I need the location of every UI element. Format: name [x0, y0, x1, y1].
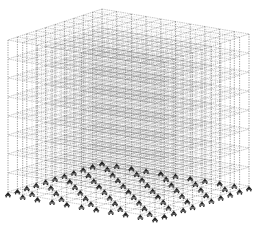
fixed-support-icon: [218, 195, 224, 201]
structural-frame-diagram: [0, 0, 257, 251]
fixed-support-icon: [152, 217, 158, 223]
fixed-support-icon: [34, 197, 40, 203]
fixed-support-icon: [123, 212, 129, 218]
fixed-support-icon: [190, 205, 196, 211]
fixed-support-icon: [137, 215, 143, 221]
fixed-support-icon: [246, 186, 252, 192]
fixed-support-icon: [64, 202, 70, 208]
fixed-support-icon: [79, 205, 85, 211]
fixed-support-icon: [5, 192, 11, 198]
fixed-support-icon: [49, 200, 55, 206]
building-frame-wireframe: [0, 0, 257, 251]
fixed-support-icon: [161, 214, 167, 220]
fixed-support-icon: [108, 210, 114, 216]
fixed-support-icon: [93, 207, 99, 213]
fixed-support-icon: [20, 195, 26, 201]
